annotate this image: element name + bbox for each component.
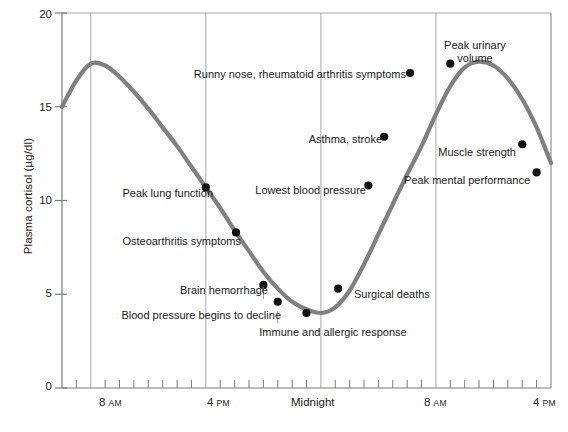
annotation-peak-mental-performance: Peak mental performance — [320, 174, 530, 187]
x-tick-meridiem: AM — [109, 398, 122, 408]
annotation-runny-nose: Runny nose, rheumatoid arthritis symptom… — [110, 68, 406, 81]
data-point-immune-and-allergic-response — [302, 309, 310, 317]
x-tick-label-4pm-day2: 4 PM — [533, 396, 556, 408]
data-point-muscle-strength — [518, 140, 526, 148]
annotation-asthma-stroke: Asthma, stroke — [210, 133, 382, 146]
annotation-muscle-strength: Muscle strength — [350, 146, 516, 159]
x-tick-label-8am-day1: 8 AM — [99, 396, 122, 408]
x-tick-meridiem: AM — [434, 398, 447, 408]
annotation-brain-hemorrhage: Brain hemorrhage — [0, 284, 268, 297]
cortisol-rhythm-chart: Plasma cortisol (µg/dl) 20 15 10 5 0 8 A… — [0, 0, 568, 432]
annotation-surgical-deaths: Surgical deaths — [354, 288, 430, 301]
y-tick-label-20: 20 — [22, 8, 52, 20]
x-tick-time: 8 — [424, 396, 430, 408]
data-point-runny-nose-rheumatoid-arthritis-symptoms — [406, 69, 414, 77]
x-tick-time: 8 — [99, 396, 105, 408]
x-tick-time: 4 — [533, 396, 539, 408]
data-point-surgical-deaths — [334, 285, 342, 293]
annotation-immune-allergic-response: Immune and allergic response — [243, 326, 423, 339]
annotation-osteoarthritis-symptoms: Osteoarthritis symptoms — [0, 235, 241, 248]
annotation-peak-urinary-volume: Peak urinary volume — [413, 39, 537, 65]
x-tick-label-4pm: 4 PM — [207, 396, 230, 408]
x-tick-time: 4 — [207, 396, 213, 408]
x-tick-meridiem: PM — [217, 398, 230, 408]
annotation-peak-urinary-volume-line1: Peak urinary — [413, 39, 537, 52]
y-tick-label-15: 15 — [22, 101, 52, 113]
x-tick-time: Midnight — [291, 396, 334, 408]
data-point-peak-mental-performance — [533, 168, 541, 176]
annotation-blood-pressure-decline: Blood pressure begins to decline — [0, 309, 281, 322]
annotation-peak-urinary-volume-line2: volume — [413, 52, 537, 65]
data-point-blood-pressure-begins-to-decline — [274, 298, 282, 306]
x-tick-meridiem: PM — [543, 398, 556, 408]
x-tick-label-8am-day2: 8 AM — [424, 396, 447, 408]
x-tick-label-midnight: Midnight — [291, 396, 334, 408]
y-tick-label-0: 0 — [22, 380, 52, 392]
